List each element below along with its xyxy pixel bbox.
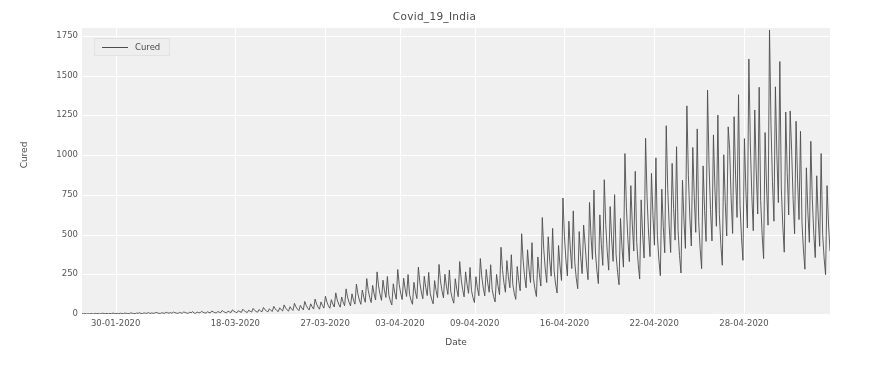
- x-tick-label: 28-04-2020: [719, 318, 768, 328]
- y-tick-label: 1250: [40, 109, 78, 119]
- x-tick-label: 22-04-2020: [630, 318, 679, 328]
- plot-area: Cured: [82, 28, 830, 314]
- chart-title: Covid_19_India: [0, 10, 869, 22]
- y-tick-label: 1000: [40, 149, 78, 159]
- y-tick-label: 500: [40, 229, 78, 239]
- cured-line-path: [82, 30, 830, 314]
- y-tick-label: 1750: [40, 30, 78, 40]
- x-tick-label: 18-03-2020: [211, 318, 260, 328]
- y-tick-label: 0: [40, 308, 78, 318]
- x-tick-label: 16-04-2020: [540, 318, 589, 328]
- chart-figure: Covid_19_India Cured 0250500750100012501…: [0, 0, 869, 371]
- data-series-cured: [82, 28, 830, 314]
- x-axis-label: Date: [82, 337, 830, 347]
- legend-label-cured: Cured: [135, 42, 160, 52]
- x-tick-label: 30-01-2020: [91, 318, 140, 328]
- legend-line-swatch: [102, 47, 128, 48]
- x-tick-label: 27-03-2020: [300, 318, 349, 328]
- y-tick-label: 250: [40, 268, 78, 278]
- x-tick-label: 09-04-2020: [450, 318, 499, 328]
- y-tick-label: 750: [40, 189, 78, 199]
- x-tick-label: 03-04-2020: [375, 318, 424, 328]
- y-tick-label: 1500: [40, 70, 78, 80]
- y-axis-label: Cured: [19, 125, 29, 185]
- chart-legend: Cured: [94, 38, 170, 56]
- y-axis-ticks: 02505007501000125015001750: [36, 28, 78, 314]
